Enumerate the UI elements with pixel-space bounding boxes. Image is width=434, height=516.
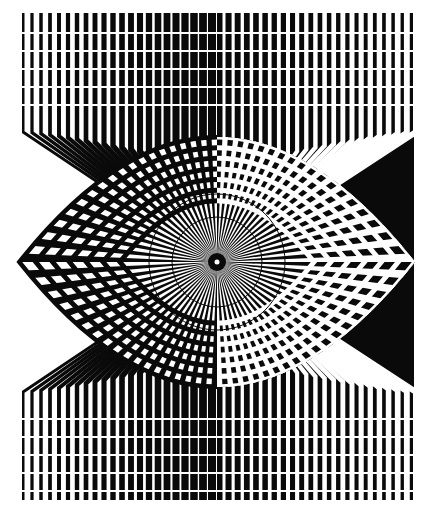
op-art-artwork: Op-art radial eye composition bbox=[0, 0, 434, 516]
eye-illusion-graphic bbox=[0, 0, 434, 516]
